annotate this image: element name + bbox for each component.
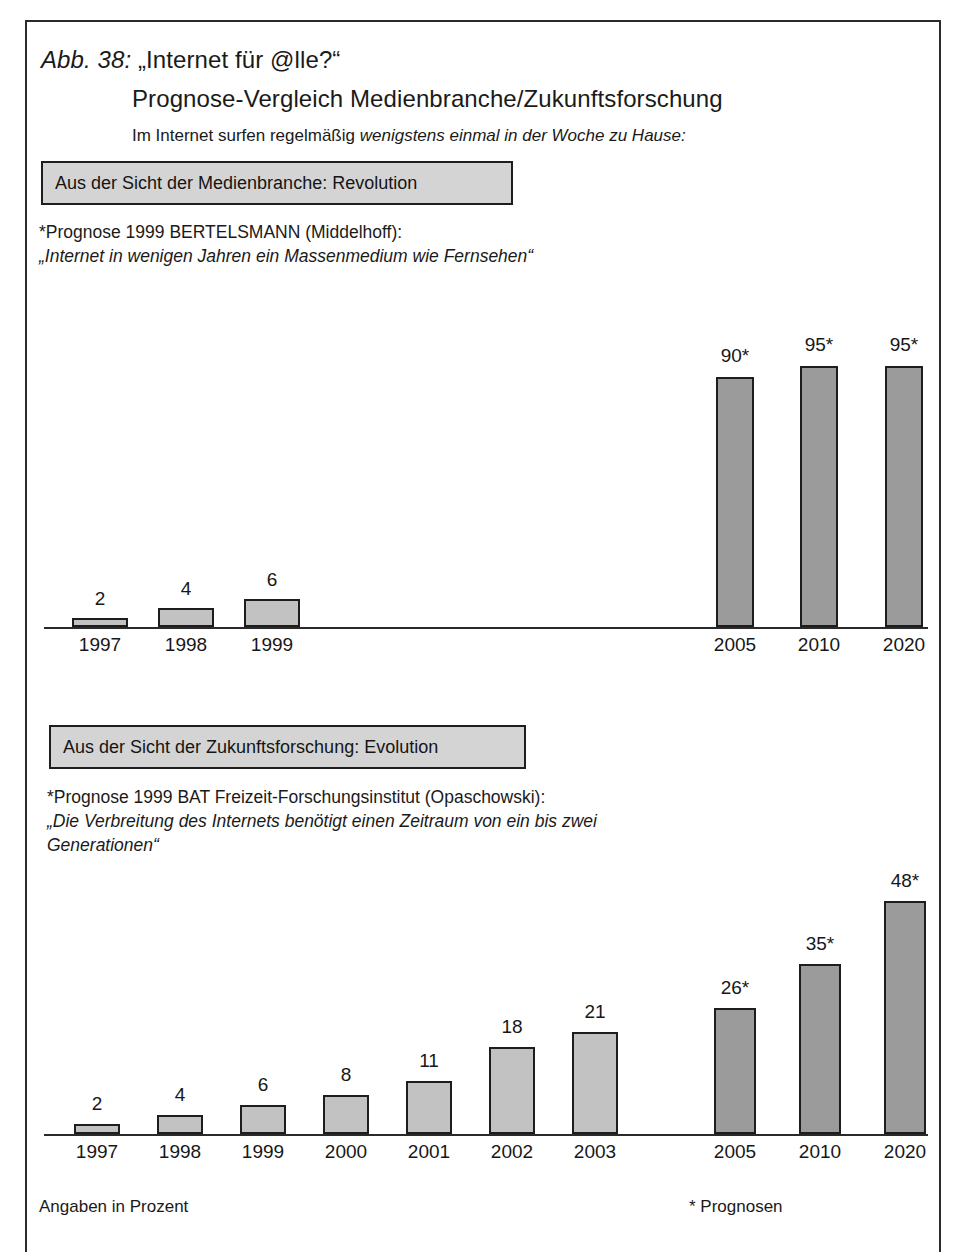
bar-2005	[716, 377, 754, 627]
chart-evolution: 2 4 6 8 11 18 21 26* 35* 48* 1997 1998 1…	[27, 842, 943, 1182]
tick-label-2010-chart-2: 2010	[785, 1141, 855, 1163]
bar-value-1998-evolution: 4	[150, 1084, 210, 1106]
x-axis-line-chart-2	[44, 1134, 928, 1136]
section-header-future-label: Aus der Sicht der Zukunftsforschung: Evo…	[51, 737, 438, 758]
prognosis-note-future-line-1: *Prognose 1999 BAT Freizeit-Forschungsin…	[47, 786, 647, 810]
tick-label-1998-chart-1: 1998	[151, 634, 221, 656]
tick-label-1999-chart-1: 1999	[237, 634, 307, 656]
prognosis-note-media: *Prognose 1999 BERTELSMANN (Middelhoff):…	[39, 221, 533, 269]
tick-label-2001-chart-2: 2001	[394, 1141, 464, 1163]
bar-value-1997: 2	[72, 588, 128, 610]
section-header-media-label: Aus der Sicht der Medienbranche: Revolut…	[43, 173, 417, 194]
bar-value-2001-evolution: 11	[399, 1050, 459, 1072]
bar-value-1998: 4	[158, 578, 214, 600]
x-axis-line-chart-1	[44, 627, 928, 629]
bar-2001-evolution	[406, 1081, 452, 1134]
section-header-future: Aus der Sicht der Zukunftsforschung: Evo…	[49, 725, 526, 769]
bar-value-2003-evolution: 21	[565, 1001, 625, 1023]
figure-title-line-1: Abb. 38: „Internet für @lle?“	[41, 46, 340, 74]
subtitle-italic-part: wenigstens einmal in der Woche zu Hause:	[360, 126, 686, 145]
bar-1997-evolution	[74, 1124, 120, 1134]
bar-value-2005-evolution: 26*	[701, 977, 769, 999]
bar-value-2000-evolution: 8	[316, 1064, 376, 1086]
figure-title-line-2: Prognose-Vergleich Medienbranche/Zukunft…	[132, 85, 723, 113]
bar-2005-evolution	[714, 1008, 756, 1134]
bar-2020-evolution	[884, 901, 926, 1134]
bar-value-1999: 6	[244, 569, 300, 591]
tick-label-2005-chart-2: 2005	[700, 1141, 770, 1163]
footer-forecast-note: * Prognosen	[689, 1197, 783, 1217]
tick-label-1999-chart-2: 1999	[228, 1141, 298, 1163]
figure-title-quoted: „Internet für @lle?“	[138, 46, 340, 73]
bar-value-1997-evolution: 2	[67, 1093, 127, 1115]
tick-label-2020-chart-1: 2020	[869, 634, 939, 656]
bar-2010	[800, 366, 838, 627]
subtitle-plain-part: Im Internet surfen regelmäßig	[132, 126, 360, 145]
bar-1999-evolution	[240, 1105, 286, 1134]
bar-value-2002-evolution: 18	[482, 1016, 542, 1038]
tick-label-2003-chart-2: 2003	[560, 1141, 630, 1163]
tick-label-2020-chart-2: 2020	[870, 1141, 940, 1163]
tick-label-1997-chart-1: 1997	[65, 634, 135, 656]
bar-value-2010: 95*	[785, 334, 853, 356]
figure-subtitle: Im Internet surfen regelmäßig wenigstens…	[132, 126, 686, 146]
bar-1998	[158, 608, 214, 627]
bar-value-2010-evolution: 35*	[786, 933, 854, 955]
prognosis-note-media-line-2: „Internet in wenigen Jahren ein Massenme…	[39, 245, 533, 269]
bar-1997	[72, 618, 128, 627]
bar-1998-evolution	[157, 1115, 203, 1134]
chart-revolution: 2 4 6 90* 95* 95* 1997 1998 1999 2005 20…	[27, 277, 943, 677]
bar-2003-evolution	[572, 1032, 618, 1134]
bar-value-2020-evolution: 48*	[871, 870, 939, 892]
tick-label-1998-chart-2: 1998	[145, 1141, 215, 1163]
figure-frame: Abb. 38: „Internet für @lle?“ Prognose-V…	[25, 20, 941, 1252]
bar-2010-evolution	[799, 964, 841, 1134]
bar-value-2005: 90*	[701, 345, 769, 367]
bar-2020	[885, 366, 923, 627]
figure-number: Abb. 38:	[41, 46, 131, 73]
bar-value-1999-evolution: 6	[233, 1074, 293, 1096]
footer-unit-note: Angaben in Prozent	[39, 1197, 188, 1217]
bar-2002-evolution	[489, 1047, 535, 1134]
bar-value-2020: 95*	[870, 334, 938, 356]
tick-label-2005-chart-1: 2005	[700, 634, 770, 656]
tick-label-2010-chart-1: 2010	[784, 634, 854, 656]
tick-label-2002-chart-2: 2002	[477, 1141, 547, 1163]
section-header-media: Aus der Sicht der Medienbranche: Revolut…	[41, 161, 513, 205]
tick-label-1997-chart-2: 1997	[62, 1141, 132, 1163]
prognosis-note-media-line-1: *Prognose 1999 BERTELSMANN (Middelhoff):	[39, 221, 533, 245]
bar-1999	[244, 599, 300, 627]
tick-label-2000-chart-2: 2000	[311, 1141, 381, 1163]
bar-2000-evolution	[323, 1095, 369, 1134]
